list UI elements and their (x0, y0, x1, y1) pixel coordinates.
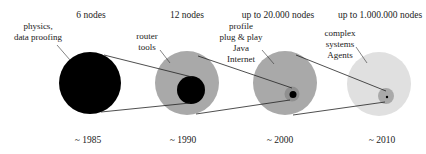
stage-2000-outer-circle (253, 51, 317, 115)
stage-2000 (253, 51, 317, 115)
annotation-line: Internet (227, 54, 255, 64)
annotation-line: profile (229, 21, 253, 31)
header-1985: 6 nodes (76, 10, 106, 20)
stage-1985 (59, 52, 121, 114)
network-growth-diagram: 6 nodes 12 nodes up to 20.000 nodes up t… (0, 0, 426, 154)
annotation-line: tools (138, 42, 156, 52)
annotation-2010: complex systems Agents (325, 28, 356, 60)
stage-1990-inner-circle (177, 76, 205, 104)
header-2010: up to 1.000.000 nodes (338, 10, 422, 20)
annotation-line: plug & play (220, 32, 263, 42)
stage-1985-circle (59, 52, 121, 114)
stage-2000-core-dot (290, 91, 297, 98)
annotation-line: router (136, 31, 158, 41)
year-1990: ~ 1990 (170, 135, 197, 145)
annotation-line: complex (325, 28, 356, 38)
annotation-1985: physics, data proofing (14, 21, 63, 42)
header-1990: 12 nodes (170, 10, 204, 20)
annotation-line: systems (326, 39, 355, 49)
stage-2010-core-dot (386, 96, 388, 98)
annotation-1990: router tools (136, 31, 158, 52)
annotation-line: Agents (327, 50, 353, 60)
year-labels: ~ 1985 ~ 1990 ~ 2000 ~ 2010 (75, 135, 396, 145)
year-2000: ~ 2000 (267, 135, 294, 145)
annotation-line: physics, (23, 21, 52, 31)
stage-headers: 6 nodes 12 nodes up to 20.000 nodes up t… (76, 10, 422, 20)
year-1985: ~ 1985 (75, 135, 102, 145)
annotation-line: data proofing (14, 32, 63, 42)
zoom-connectors (101, 55, 386, 115)
annotation-line: Java (233, 43, 249, 53)
header-2000: up to 20.000 nodes (242, 10, 315, 20)
leader-1985 (57, 45, 70, 60)
annotation-2000: profile plug & play Java Internet (220, 21, 263, 64)
year-2010: ~ 2010 (369, 135, 396, 145)
stage-2010-inner-circle (378, 88, 394, 104)
